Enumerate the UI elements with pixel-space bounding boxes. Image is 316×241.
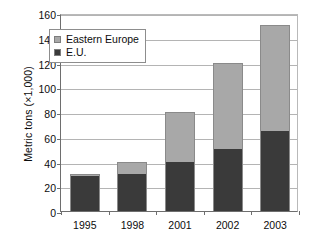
legend-item[interactable]: Eastern Europe xyxy=(54,33,139,46)
y-tick-label: 100 xyxy=(38,83,56,95)
y-tick-mark xyxy=(57,139,61,140)
legend: Eastern EuropeE.U. xyxy=(49,29,146,63)
bar-group[interactable] xyxy=(260,25,290,211)
x-tick-mark xyxy=(61,211,62,215)
gridline xyxy=(61,15,297,16)
x-tick-mark xyxy=(299,211,300,215)
y-tick-mark xyxy=(57,89,61,90)
bar-segment-eastern-europe[interactable] xyxy=(213,63,243,150)
x-tick-label: 2001 xyxy=(168,219,191,231)
legend-swatch-icon xyxy=(54,49,61,56)
x-tick-mark xyxy=(251,211,252,215)
bar-segment-eu[interactable] xyxy=(70,176,100,211)
legend-label: E.U. xyxy=(66,47,86,58)
x-tick-mark xyxy=(156,211,157,215)
bar-segment-eastern-europe[interactable] xyxy=(117,162,147,174)
x-tick-mark xyxy=(109,211,110,215)
x-tick-label: 1995 xyxy=(73,219,96,231)
x-tick-label: 1998 xyxy=(121,219,144,231)
y-tick-label: 60 xyxy=(44,133,56,145)
y-tick-mark xyxy=(57,65,61,66)
y-tick-label: 80 xyxy=(44,108,56,120)
bar-segment-eu[interactable] xyxy=(165,162,195,212)
legend-label: Eastern Europe xyxy=(66,34,139,45)
x-tick-label: 2003 xyxy=(264,219,287,231)
bar-segment-eu[interactable] xyxy=(213,149,243,211)
x-tick-mark xyxy=(204,211,205,215)
bar-segment-eu[interactable] xyxy=(260,131,290,211)
y-tick-label: 40 xyxy=(44,158,56,170)
bar-group[interactable] xyxy=(70,174,100,211)
x-tick-label: 2002 xyxy=(216,219,239,231)
y-tick-label: 0 xyxy=(50,207,56,219)
bar-chart: Metric tons (×1,000) 1601401201008060402… xyxy=(0,0,316,241)
bar-group[interactable] xyxy=(117,162,147,212)
y-axis-title: Metric tons (×1,000) xyxy=(22,24,34,204)
y-tick-mark xyxy=(57,114,61,115)
y-tick-label: 20 xyxy=(44,182,56,194)
bar-group[interactable] xyxy=(213,63,243,212)
legend-swatch-icon xyxy=(54,36,61,43)
legend-item[interactable]: E.U. xyxy=(54,46,139,59)
bar-group[interactable] xyxy=(165,112,195,211)
bar-segment-eastern-europe[interactable] xyxy=(260,25,290,130)
bar-segment-eu[interactable] xyxy=(117,174,147,211)
y-tick-mark xyxy=(57,15,61,16)
y-tick-label: 160 xyxy=(38,9,56,21)
y-tick-mark xyxy=(57,164,61,165)
y-tick-mark xyxy=(57,188,61,189)
bar-segment-eastern-europe[interactable] xyxy=(165,112,195,162)
